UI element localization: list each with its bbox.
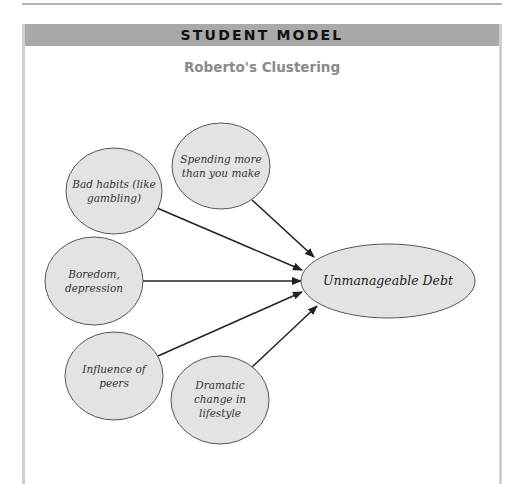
node-label: than you make xyxy=(182,167,261,179)
arrow-lifestyle xyxy=(251,306,317,368)
arrow-spending xyxy=(252,200,314,257)
arrow-bad-habits xyxy=(157,208,302,270)
node-spending: Spending more than you make xyxy=(172,123,270,209)
node-unmanageable-debt: Unmanageable Debt xyxy=(301,244,475,318)
node-boredom: Boredom, depression xyxy=(45,237,143,325)
node-label: change in xyxy=(194,393,246,405)
node-label: lifestyle xyxy=(199,407,241,419)
node-label: depression xyxy=(65,282,123,294)
node-label: Dramatic xyxy=(194,379,244,391)
arrow-peers xyxy=(158,292,302,356)
node-label: Influence of xyxy=(81,363,147,375)
node-lifestyle: Dramatic change in lifestyle xyxy=(171,356,269,444)
node-label: Boredom, xyxy=(67,268,120,280)
arrows xyxy=(143,200,317,368)
node-label: Bad habits (like xyxy=(71,178,155,190)
node-peers: Influence of peers xyxy=(65,332,163,420)
node-label: Spending more xyxy=(180,153,261,165)
node-bad-habits: Bad habits (like gambling) xyxy=(66,148,162,234)
node-label: gambling) xyxy=(87,192,141,204)
node-label: peers xyxy=(99,377,129,389)
central-node-label: Unmanageable Debt xyxy=(323,273,454,288)
